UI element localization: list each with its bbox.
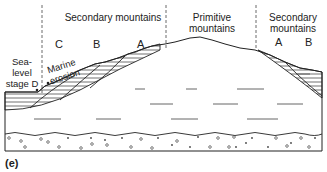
- stratum-letter-a: A: [137, 38, 144, 50]
- label-secondary-mountains-left: Secondary mountains: [63, 12, 163, 23]
- stratum-letter-a-right: A: [275, 36, 282, 48]
- stratum-letter-b: B: [93, 38, 100, 50]
- stratum-letter-c: C: [55, 38, 63, 50]
- label-secondary-mountains-right: Secondary mountains: [262, 12, 324, 34]
- right-strata: [258, 50, 322, 98]
- label-sea-level-stage: Sea-level stage D: [3, 56, 41, 89]
- stratum-letter-b-right: B: [305, 36, 312, 48]
- panel-label: (e): [5, 157, 18, 169]
- unconformity-line: [5, 133, 322, 136]
- label-primitive-mountains: Primitive mountains: [177, 12, 247, 34]
